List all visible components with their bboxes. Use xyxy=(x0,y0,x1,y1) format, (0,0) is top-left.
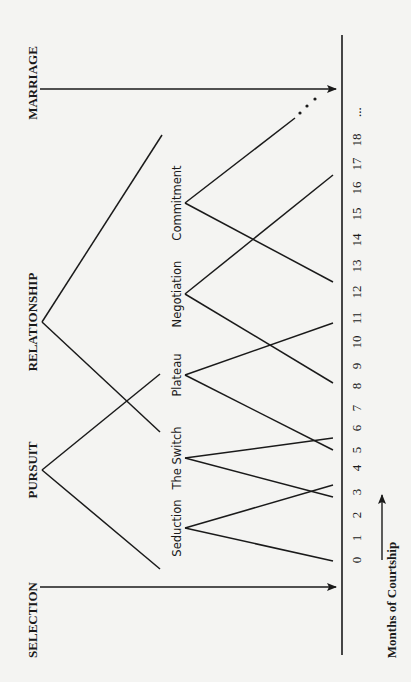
month-tick-label: 11 xyxy=(349,312,364,325)
stage-label-seduction: Seduction xyxy=(170,499,184,556)
relationship-branch-line xyxy=(42,322,160,432)
month-tick-label: 8 xyxy=(349,383,364,390)
relationship-branch-line xyxy=(42,135,162,322)
month-tick-label: 5 xyxy=(349,447,364,454)
stage-label-commitment: Commitment xyxy=(170,165,184,241)
stage-label-negotiation: Negotiation xyxy=(170,261,184,328)
pursuit-branch-line xyxy=(42,470,160,569)
phase-label-marriage: MARRIAGE xyxy=(25,46,40,120)
plateau-branch-line xyxy=(185,323,333,375)
phase-label-selection: SELECTION xyxy=(25,581,40,657)
commitment-branch-line xyxy=(185,203,333,282)
phase-relationship: RELATIONSHIP xyxy=(25,135,162,432)
the-switch-branch-line xyxy=(185,438,333,458)
stage-label-plateau: Plateau xyxy=(170,353,184,396)
stage-plateau: Plateau xyxy=(170,323,334,450)
month-tick-label: 12 xyxy=(349,286,364,299)
month-tick-label: 9 xyxy=(349,363,364,370)
continuation-dot xyxy=(313,97,316,100)
phase-label-relationship: RELATIONSHIP xyxy=(25,273,40,372)
month-tick-label: 18 xyxy=(349,134,364,147)
stage-seduction: Seduction xyxy=(170,485,334,561)
month-tick-label: 14 xyxy=(349,233,364,247)
phase-selection: SELECTION xyxy=(25,581,336,657)
phase-group: SELECTIONPURSUITRELATIONSHIPMARRIAGE xyxy=(25,46,336,658)
month-tick-label: 4 xyxy=(349,464,364,471)
month-tick-label: 17 xyxy=(349,157,364,171)
month-tick-label: 2 xyxy=(349,512,364,519)
time-axis: 0123456789101112131415161718...Months of… xyxy=(342,35,399,658)
phase-marriage: MARRIAGE xyxy=(25,46,336,120)
pursuit-branch-line xyxy=(42,374,160,470)
diagram-canvas: 0123456789101112131415161718...Months of… xyxy=(0,0,411,682)
commitment-branch-line xyxy=(185,118,295,203)
month-tick-label: 13 xyxy=(349,260,364,273)
phase-pursuit: PURSUIT xyxy=(25,374,160,569)
phase-label-pursuit: PURSUIT xyxy=(25,441,40,498)
month-tick-label: 10 xyxy=(349,336,364,349)
negotiation-branch-line xyxy=(185,175,333,294)
the-switch-branch-line xyxy=(185,458,333,497)
month-tick-label: 1 xyxy=(349,535,364,542)
month-tick-label: 16 xyxy=(349,181,364,195)
seduction-branch-line xyxy=(185,528,333,561)
continuation-dots xyxy=(298,97,316,114)
axis-title: Months of Courtship xyxy=(384,542,399,658)
stage-label-the-switch: The Switch xyxy=(170,426,184,490)
plateau-branch-line xyxy=(185,375,333,450)
stage-commitment: Commitment xyxy=(170,118,334,282)
month-tick-label: ... xyxy=(349,107,364,117)
continuation-dot xyxy=(305,104,308,107)
month-tick-label: 0 xyxy=(349,557,364,564)
continuation-dot xyxy=(298,111,301,114)
negotiation-branch-line xyxy=(185,294,333,383)
month-tick-label: 6 xyxy=(349,424,364,431)
month-tick-label: 7 xyxy=(349,404,364,411)
month-tick-label: 15 xyxy=(349,208,364,221)
courtship-diagram: 0123456789101112131415161718...Months of… xyxy=(0,0,411,682)
stage-group: SeductionThe SwitchPlateauNegotiationCom… xyxy=(170,118,334,561)
month-tick-label: 3 xyxy=(349,489,364,496)
